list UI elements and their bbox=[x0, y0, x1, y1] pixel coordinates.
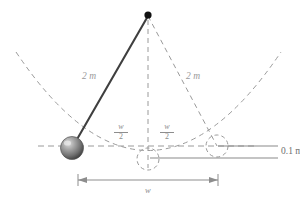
bob-highlight bbox=[64, 140, 71, 145]
half-width-left-denominator: 2 bbox=[114, 133, 128, 141]
arrowhead-left-icon bbox=[78, 177, 87, 183]
rod-length-right-label: 2 m bbox=[186, 72, 200, 82]
half-width-right-numerator: w bbox=[160, 123, 174, 131]
half-width-left-label: w 2 bbox=[114, 123, 128, 142]
diagram-canvas bbox=[0, 0, 300, 203]
arrowhead-right-icon bbox=[209, 177, 218, 183]
pendulum-diagram: 2 m 2 m w 2 w 2 0.1 m w bbox=[0, 0, 300, 203]
pivot-point bbox=[144, 11, 151, 18]
drop-height-label: 0.1 m bbox=[281, 147, 300, 157]
rod-length-left-label: 2 m bbox=[82, 72, 96, 82]
pendulum-bob bbox=[61, 137, 84, 160]
half-width-right-denominator: 2 bbox=[160, 133, 174, 141]
half-width-right-label: w 2 bbox=[160, 123, 174, 142]
half-width-left-numerator: w bbox=[114, 123, 128, 131]
rod-right-dashed bbox=[148, 16, 217, 146]
rod-left-solid bbox=[72, 16, 148, 148]
total-width-label: w bbox=[145, 186, 151, 195]
